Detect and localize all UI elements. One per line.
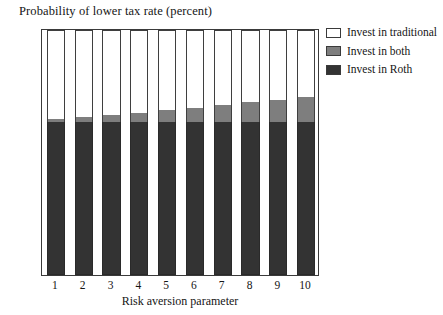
bar-segment-both [241, 102, 259, 122]
bar-group [130, 30, 148, 275]
x-axis-label: 5 [163, 280, 169, 292]
bar-segment-both [130, 113, 148, 122]
bar-segment-both [158, 110, 176, 122]
x-axis-label: 10 [299, 280, 311, 292]
bar-segment-traditional [158, 30, 176, 110]
bar-group [158, 30, 176, 275]
x-axis-label: 1 [52, 280, 58, 292]
bar-group [241, 30, 259, 275]
bar-segment-traditional [75, 30, 93, 117]
bar-segment-traditional [241, 30, 259, 102]
bar-segment-roth [158, 122, 176, 275]
bar-group [297, 30, 315, 275]
bar-segment-roth [214, 122, 232, 275]
bar-group [102, 30, 120, 275]
bar-segment-traditional [186, 30, 204, 108]
bar-segment-roth [186, 122, 204, 275]
legend-item: Invest in both [326, 46, 441, 58]
bar-segment-roth [269, 122, 287, 275]
bar-segment-traditional [47, 30, 65, 119]
legend-label: Invest in both [347, 46, 410, 58]
bar-segment-traditional [214, 30, 232, 105]
bar-segment-roth [47, 122, 65, 275]
x-axis: 12345678910 [41, 276, 319, 296]
legend-label: Invest in traditional [347, 27, 437, 39]
bar-group [47, 30, 65, 275]
plot-area [41, 29, 319, 276]
bar-segment-traditional [102, 30, 120, 115]
x-axis-title: Risk aversion parameter [41, 294, 319, 309]
x-axis-label: 4 [135, 280, 141, 292]
legend-swatch-roth [326, 65, 341, 75]
legend-swatch-both [326, 46, 341, 56]
x-axis-label: 7 [219, 280, 225, 292]
chart-title: Probability of lower tax rate (percent) [19, 4, 212, 19]
bar-segment-both [269, 100, 287, 122]
bar-segment-roth [241, 122, 259, 275]
bar-segment-roth [75, 122, 93, 275]
bar-segment-traditional [130, 30, 148, 113]
bars-layer [42, 30, 318, 275]
x-axis-label: 9 [274, 280, 280, 292]
legend-swatch-traditional [326, 28, 341, 38]
bar-segment-both [297, 97, 315, 121]
x-axis-label: 2 [80, 280, 86, 292]
bar-segment-roth [102, 122, 120, 275]
bar-segment-both [102, 115, 120, 122]
bar-group [186, 30, 204, 275]
legend-item: Invest in traditional [326, 27, 441, 39]
x-axis-label: 8 [247, 280, 253, 292]
legend-item: Invest in Roth [326, 64, 441, 76]
legend-label: Invest in Roth [347, 64, 412, 76]
x-axis-label: 3 [108, 280, 114, 292]
bar-group [75, 30, 93, 275]
bar-segment-traditional [297, 30, 315, 97]
bar-group [214, 30, 232, 275]
x-axis-label: 6 [191, 280, 197, 292]
bar-segment-roth [297, 122, 315, 275]
y-axis: 0.10.20.30.40.50.60.70.80.9 [0, 29, 41, 276]
bar-segment-traditional [269, 30, 287, 100]
bar-segment-both [186, 108, 204, 122]
chart-container: Probability of lower tax rate (percent) … [0, 0, 443, 315]
bar-group [269, 30, 287, 275]
chart-legend: Invest in traditionalInvest in bothInves… [326, 27, 441, 83]
bar-segment-roth [130, 122, 148, 275]
bar-segment-both [214, 105, 232, 122]
